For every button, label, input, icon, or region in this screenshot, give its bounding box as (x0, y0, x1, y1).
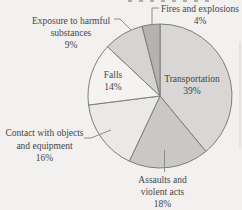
label-contact-with-objects: Contact with objects and equipment 16% (0, 127, 89, 165)
label-transportation: Transportation 39% (152, 73, 232, 97)
label-assaults-text-line2: violent acts (122, 186, 203, 198)
label-contact-pct: 16% (0, 152, 89, 165)
label-contact-text-line2: and equipment (0, 140, 89, 153)
label-exposure-pct: 9% (21, 39, 121, 51)
label-assaults-pct: 18% (122, 198, 203, 210)
label-falls-pct: 14% (88, 81, 138, 93)
label-exposure-text-line2: substances (21, 27, 121, 39)
label-assaults-text-line1: Assaults and (122, 174, 203, 186)
label-transportation-text: Transportation (152, 73, 232, 85)
label-exposure-to-harmful-substances: Exposure to harmful substances 9% (21, 15, 121, 51)
label-fires-and-explosions: Fires and explosions 4% (158, 3, 242, 27)
label-falls: Falls 14% (88, 69, 138, 93)
label-fires-pct: 4% (158, 15, 242, 27)
label-fires-text: Fires and explosions (158, 3, 242, 15)
pie-chart-figure: Fires and explosions 4% Exposure to harm… (0, 0, 242, 210)
label-contact-text-line1: Contact with objects (0, 127, 89, 140)
label-assaults-and-violent-acts: Assaults and violent acts 18% (122, 174, 203, 210)
label-transportation-pct: 39% (152, 85, 232, 97)
label-falls-text: Falls (88, 69, 138, 81)
label-exposure-text-line1: Exposure to harmful (21, 15, 121, 27)
